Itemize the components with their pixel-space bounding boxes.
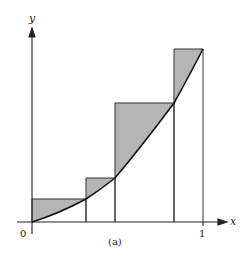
x-axis-label: x (230, 215, 237, 228)
x-axis-arrow-icon (218, 219, 227, 225)
x-tick-label-1: 1 (199, 228, 205, 239)
shaded-regions (32, 49, 203, 222)
riemann-sum-diagram: y x 0 1 (a) (0, 0, 247, 266)
y-axis-arrow-icon (29, 28, 35, 37)
y-axis-label: y (28, 12, 36, 25)
figure-caption: (a) (108, 236, 122, 247)
origin-label: 0 (20, 228, 26, 239)
